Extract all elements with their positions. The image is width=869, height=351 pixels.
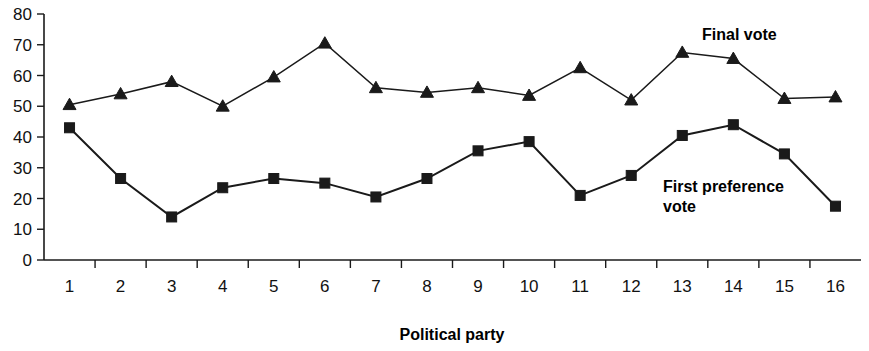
y-axis-tick-label: 10 [13, 220, 32, 239]
x-axis-tick-label: 2 [116, 277, 125, 296]
x-axis-tick-label: 11 [571, 277, 589, 296]
data-point-marker-triangle [472, 81, 485, 92]
y-axis-tick-label: 70 [13, 36, 32, 55]
x-axis-tick-label: 13 [673, 277, 692, 296]
y-axis: 01020304050607080 [13, 5, 44, 270]
data-point-marker-square [677, 130, 687, 140]
data-point-marker-square [371, 192, 381, 202]
data-point-marker-square [320, 178, 330, 188]
data-point-marker-triangle [574, 61, 587, 72]
y-axis-tick-label: 50 [13, 97, 32, 116]
x-axis-tick-label: 1 [65, 277, 74, 296]
series-first-preference-vote [65, 120, 841, 222]
y-axis-tick-label: 40 [13, 128, 32, 147]
data-point-marker-triangle [216, 100, 229, 111]
series-label: First preference [663, 178, 784, 195]
line-chart: 01020304050607080 1234567891011121314151… [0, 0, 869, 351]
x-axis-tick-label: 7 [371, 277, 380, 296]
data-point-marker-square [167, 212, 177, 222]
series-label: vote [663, 198, 696, 215]
data-point-marker-triangle [676, 46, 689, 57]
x-axis-tick-label: 15 [775, 277, 794, 296]
x-axis-tick-label: 10 [520, 277, 539, 296]
y-axis-tick-label: 80 [13, 5, 32, 24]
x-axis-tick-label: 14 [724, 277, 743, 296]
data-point-marker-triangle [829, 91, 842, 102]
y-axis-tick-label: 20 [13, 190, 32, 209]
y-axis-tick-label: 30 [13, 159, 32, 178]
data-point-marker-triangle [318, 37, 331, 48]
data-point-marker-square [473, 146, 483, 156]
x-axis-tick-label: 8 [422, 277, 431, 296]
data-point-marker-square [830, 201, 840, 211]
x-axis-title: Political party [400, 326, 505, 343]
data-point-marker-square [575, 190, 585, 200]
data-point-marker-square [269, 174, 279, 184]
data-point-marker-square [524, 137, 534, 147]
data-point-marker-triangle [165, 75, 178, 86]
x-axis: 12345678910111213141516 [44, 260, 861, 296]
data-point-marker-square [116, 174, 126, 184]
x-axis-tick-label: 9 [473, 277, 482, 296]
series-label: Final vote [702, 26, 777, 43]
data-point-marker-triangle [267, 71, 280, 82]
x-axis-tick-label: 12 [622, 277, 641, 296]
x-axis-tick-label: 6 [320, 277, 329, 296]
x-axis-tick-label: 5 [269, 277, 278, 296]
x-axis-tick-label: 16 [826, 277, 845, 296]
data-point-marker-square [218, 183, 228, 193]
data-point-marker-square [422, 174, 432, 184]
x-axis-tick-label: 4 [218, 277, 227, 296]
y-axis-tick-label: 0 [23, 251, 32, 270]
data-point-marker-square [728, 120, 738, 130]
data-point-marker-square [626, 170, 636, 180]
data-point-marker-square [779, 149, 789, 159]
series-final-vote [63, 37, 842, 111]
data-point-marker-square [65, 123, 75, 133]
x-axis-tick-label: 3 [167, 277, 176, 296]
chart-container: 01020304050607080 1234567891011121314151… [0, 0, 869, 351]
y-axis-tick-label: 60 [13, 67, 32, 86]
